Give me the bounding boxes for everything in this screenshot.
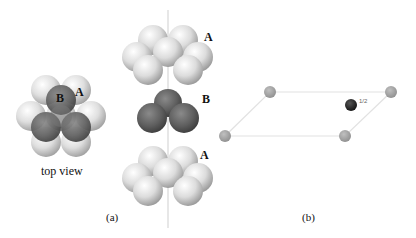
corner-atom xyxy=(339,130,351,142)
stack-label-a-top: A xyxy=(204,30,213,45)
top-view-label-b: B xyxy=(56,91,64,106)
fraction-label: 1/2 xyxy=(359,98,367,104)
panel-b-caption: (b) xyxy=(302,211,315,223)
stack-label-a-bottom: A xyxy=(200,148,209,163)
corner-atom xyxy=(264,86,276,98)
top-view-label-a: A xyxy=(75,85,84,100)
corner-atom xyxy=(385,86,397,98)
interior-atom xyxy=(345,99,357,111)
panel-a-caption: (a) xyxy=(106,211,118,223)
unit-cell xyxy=(219,86,397,142)
corner-atom xyxy=(219,130,231,142)
top-view-cluster xyxy=(16,75,106,157)
top-view-caption: top view xyxy=(41,164,83,179)
stack-label-b: B xyxy=(202,92,210,107)
